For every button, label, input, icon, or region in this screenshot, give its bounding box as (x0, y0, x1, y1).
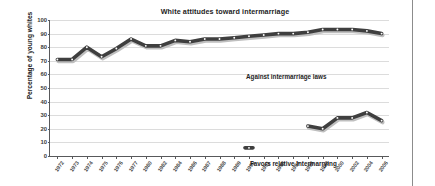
x-tick-mark (264, 156, 265, 159)
x-tick-mark (249, 156, 250, 159)
x-tick-mark (234, 156, 235, 159)
data-point-marker (336, 29, 338, 31)
series-line (57, 30, 381, 60)
data-point-marker (322, 29, 324, 31)
y-tick-label: 80 (40, 44, 47, 50)
data-point-marker (219, 38, 221, 40)
x-tick-mark (337, 156, 338, 159)
data-point-marker (115, 48, 117, 50)
x-tick-label: 1974 (83, 160, 95, 173)
x-tick-label: 1989 (230, 160, 242, 173)
data-point-marker (366, 112, 368, 114)
x-tick-label: 1980 (142, 160, 154, 173)
x-tick-mark (161, 156, 162, 159)
y-tick-mark (48, 156, 51, 157)
x-tick-mark (175, 156, 176, 159)
x-tick-label: 1973 (68, 160, 80, 173)
x-tick-label: 2004 (363, 160, 375, 173)
x-tick-mark (72, 156, 73, 159)
data-point-marker (233, 37, 235, 39)
annotation-favors-relative-intermarrying: Favors relative intermarrying (250, 160, 337, 167)
data-point-marker (322, 128, 324, 130)
x-tick-label: 1982 (156, 160, 168, 173)
series-favors-relative-intermarrying (245, 112, 383, 150)
chart-figure: White attitudes toward intermarriage Per… (0, 0, 400, 186)
y-tick-label: 70 (40, 58, 47, 64)
x-tick-mark (308, 156, 309, 159)
data-point-marker (263, 34, 265, 36)
data-point-marker (86, 46, 88, 48)
x-tick-mark (205, 156, 206, 159)
x-tick-mark (367, 156, 368, 159)
data-point-marker (307, 125, 309, 127)
data-point-marker (160, 45, 162, 47)
data-point-marker (366, 30, 368, 32)
y-tick-label: 30 (40, 112, 47, 118)
data-point-marker (56, 58, 58, 60)
x-tick-mark (116, 156, 117, 159)
x-tick-mark (323, 156, 324, 159)
data-point-marker (292, 33, 294, 35)
y-axis-label: Percentage of young whites (26, 0, 33, 121)
x-tick-mark (382, 156, 383, 159)
x-tick-mark (102, 156, 103, 159)
x-tick-mark (87, 156, 88, 159)
x-tick-mark (57, 156, 58, 159)
x-tick-mark (293, 156, 294, 159)
y-tick-label: 100 (37, 17, 47, 23)
x-tick-mark (146, 156, 147, 159)
page-panel-border (412, 0, 435, 186)
x-tick-label: 1976 (112, 160, 124, 173)
y-tick-label: 50 (40, 85, 47, 91)
x-tick-label: 1988 (215, 160, 227, 173)
x-tick-mark (278, 156, 279, 159)
x-tick-label: 2002 (348, 160, 360, 173)
data-point-marker (174, 39, 176, 41)
y-tick-label: 40 (40, 99, 47, 105)
y-tick-label: 90 (40, 31, 47, 37)
data-point-marker (351, 29, 353, 31)
data-point-marker (130, 38, 132, 40)
y-tick-label: 0 (44, 153, 47, 159)
x-tick-mark (190, 156, 191, 159)
chart-title: White attitudes toward intermarriage (60, 7, 390, 16)
plot-area: 0102030405060708090100 19721973197419751… (49, 20, 389, 157)
data-point-marker (307, 31, 309, 33)
x-tick-label: 1975 (97, 160, 109, 173)
annotation-against-intermarriage-laws: Against intermarriage laws (246, 73, 327, 80)
data-point-marker (145, 45, 147, 47)
x-tick-label: 2006 (377, 160, 389, 173)
data-point-marker (101, 56, 103, 58)
x-tick-label: 1977 (127, 160, 139, 173)
data-point-marker (204, 38, 206, 40)
x-tick-label: 1984 (171, 160, 183, 173)
x-tick-mark (352, 156, 353, 159)
x-tick-label: 1986 (186, 160, 198, 173)
y-tick-label: 60 (40, 71, 47, 77)
x-tick-mark (220, 156, 221, 159)
y-tick-label: 20 (40, 126, 47, 132)
data-point-marker (381, 33, 383, 35)
x-tick-label: 1987 (201, 160, 213, 173)
data-point-marker (381, 120, 383, 122)
data-point-marker (278, 33, 280, 35)
series-line-shadow (58, 31, 382, 61)
data-point-marker (248, 35, 250, 37)
x-tick-label: 1972 (53, 160, 65, 173)
data-point-marker (248, 147, 250, 149)
data-point-marker (351, 117, 353, 119)
data-point-marker (336, 117, 338, 119)
data-point-marker (189, 41, 191, 43)
data-point-marker (71, 58, 73, 60)
chart-page: White attitudes toward intermarriage Per… (0, 0, 435, 186)
series-against-intermarriage-laws (56, 29, 382, 61)
x-tick-mark (131, 156, 132, 159)
y-tick-label: 10 (40, 139, 47, 145)
series-layer (50, 20, 389, 156)
